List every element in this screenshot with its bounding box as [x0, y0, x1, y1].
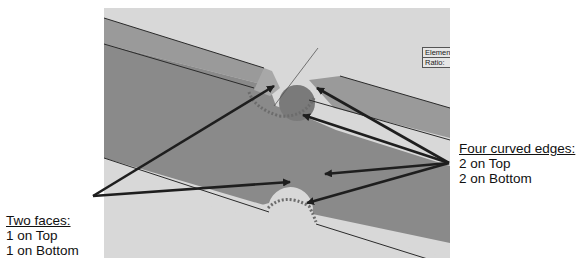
- four-edges-line2: 2 on Bottom: [459, 171, 575, 186]
- cad-viewport[interactable]: Element Size (in): 0.08423385 Ratio: 1.5: [104, 8, 450, 258]
- ratio-label: Ratio:: [423, 58, 450, 67]
- element-size-tooltip: Element Size (in): 0.08423385 Ratio: 1.5: [422, 47, 450, 68]
- two-faces-callout: Two faces: 1 on Top 1 on Bottom: [6, 213, 79, 258]
- two-faces-line2: 1 on Bottom: [6, 243, 79, 258]
- four-edges-callout: Four curved edges: 2 on Top 2 on Bottom: [459, 141, 575, 186]
- four-edges-line1: 2 on Top: [459, 156, 575, 171]
- two-faces-line1: 1 on Top: [6, 228, 79, 243]
- two-faces-title: Two faces:: [6, 213, 79, 228]
- four-edges-title: Four curved edges:: [459, 141, 575, 156]
- element-size-label: Element Size (in):: [423, 48, 450, 58]
- beam-model: [104, 8, 450, 258]
